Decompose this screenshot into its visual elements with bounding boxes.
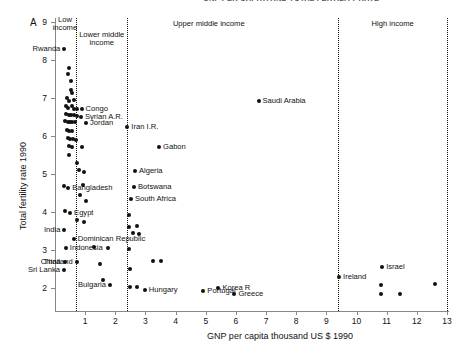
data-point	[66, 186, 70, 190]
y-tick-label: 4	[33, 207, 47, 217]
x-tick	[145, 311, 146, 315]
data-point	[69, 79, 73, 83]
x-tick-label: 12	[407, 316, 427, 326]
x-tick-label: 10	[347, 316, 367, 326]
data-point	[128, 285, 132, 289]
y-tick-label: 6	[33, 131, 47, 141]
x-tick	[417, 311, 418, 315]
point-label: Bulgaria	[0, 281, 106, 289]
data-point	[75, 161, 79, 165]
data-point	[63, 209, 67, 213]
data-point	[127, 225, 131, 229]
data-point	[62, 47, 66, 51]
point-label: Greece	[238, 290, 263, 298]
x-tick	[206, 311, 207, 315]
x-tick-label: 4	[166, 316, 186, 326]
x-tick	[296, 311, 297, 315]
data-point	[127, 213, 131, 217]
point-label: Portugal	[207, 287, 235, 295]
data-point	[70, 145, 74, 149]
x-axis-label: GNP per capita thousand US $ 1990	[150, 331, 410, 341]
data-point	[78, 193, 82, 197]
point-label: Jordan	[90, 119, 113, 127]
point-label: Egypt	[74, 209, 93, 217]
data-point	[75, 107, 79, 111]
data-point	[62, 228, 66, 232]
point-label: Algeria	[139, 167, 163, 175]
data-point	[132, 185, 136, 189]
point-label: Botswana	[138, 183, 171, 191]
point-label: Iran I.R.	[131, 123, 158, 131]
x-tick	[85, 311, 86, 315]
data-point	[98, 262, 102, 266]
data-point	[133, 169, 137, 173]
point-label: Bangladesh	[72, 184, 112, 192]
point-label: Dominican Republic	[78, 235, 146, 243]
data-point	[75, 260, 79, 264]
data-point	[79, 115, 83, 119]
y-axis-label: Total fertility rate 1990	[18, 142, 28, 230]
data-point	[84, 121, 88, 125]
data-point	[67, 66, 71, 70]
data-point	[62, 268, 66, 272]
data-point	[398, 292, 402, 296]
data-point	[82, 170, 86, 174]
data-point	[75, 218, 79, 222]
y-tick	[51, 136, 55, 137]
x-tick-label: 5	[196, 316, 216, 326]
data-point	[379, 292, 383, 296]
data-point	[232, 292, 236, 296]
x-tick	[447, 311, 448, 315]
y-tick	[51, 250, 55, 251]
data-point	[72, 237, 76, 241]
x-tick-label: 11	[377, 316, 397, 326]
data-point	[68, 211, 72, 215]
band-divider	[447, 18, 448, 311]
data-point	[135, 224, 139, 228]
data-point	[379, 283, 383, 287]
data-point	[80, 145, 84, 149]
data-point	[257, 99, 261, 103]
x-tick-label: 8	[286, 316, 306, 326]
y-tick-label: 7	[33, 93, 47, 103]
point-label: South Africa	[135, 195, 176, 203]
band-label-upper-middle-income: Upper middle income	[166, 20, 252, 28]
scatter-plot-figure: GNP PER CAPITA AND TOTAL FERTILITY RATE …	[0, 0, 468, 351]
point-label: Sri Lanka	[0, 266, 60, 274]
data-point	[70, 91, 74, 95]
x-tick-label: 1	[75, 316, 95, 326]
x-tick	[357, 311, 358, 315]
y-tick	[51, 174, 55, 175]
data-point	[127, 247, 131, 251]
data-point	[159, 259, 163, 263]
y-tick-label: 3	[33, 245, 47, 255]
data-point	[337, 275, 341, 279]
data-point	[77, 168, 81, 172]
clipped-header-title: GNP PER CAPITA AND TOTAL FERTILITY RATE	[126, 0, 456, 3]
point-label: Ireland	[343, 273, 366, 281]
x-tick	[387, 311, 388, 315]
y-tick-label: 8	[33, 55, 47, 65]
band-label-lower-middle-income: Lower middle income	[59, 31, 145, 47]
data-point	[108, 283, 112, 287]
data-point	[128, 267, 132, 271]
x-tick-label: 6	[226, 316, 246, 326]
data-point	[67, 153, 71, 157]
band-divider	[338, 18, 339, 311]
data-point	[74, 138, 78, 142]
y-tick	[51, 98, 55, 99]
y-tick	[51, 60, 55, 61]
x-tick	[326, 311, 327, 315]
x-tick-label: 7	[256, 316, 276, 326]
data-point	[380, 265, 384, 269]
data-point	[64, 246, 68, 250]
y-tick-label: 5	[33, 169, 47, 179]
data-point	[143, 288, 147, 292]
point-label: Saudi Arabia	[263, 97, 306, 105]
point-label: Gabon	[163, 143, 186, 151]
data-point	[157, 145, 161, 149]
data-point	[70, 129, 74, 133]
y-tick	[51, 212, 55, 213]
data-point	[125, 125, 129, 129]
band-label-high-income: High income	[350, 20, 436, 28]
